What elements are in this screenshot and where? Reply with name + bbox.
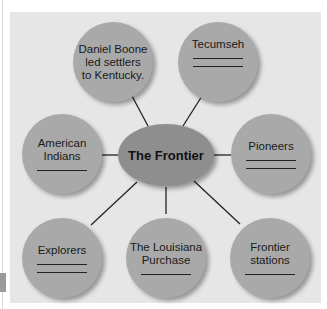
node-text: Tecumseh (192, 38, 244, 51)
answer-blank[interactable] (37, 264, 87, 265)
center-label: The Frontier (128, 148, 204, 163)
node-text: to Kentucky. (82, 69, 144, 82)
node-text: Daniel Boone (78, 43, 147, 56)
node-text: stations (250, 254, 290, 267)
node-text: Pioneers (248, 140, 293, 153)
answer-blank[interactable] (37, 272, 87, 273)
node-american-indians: American Indians (22, 114, 102, 194)
node-text: The Louisiana (130, 241, 202, 254)
answer-blank[interactable] (37, 170, 87, 171)
node-text: Purchase (142, 254, 191, 267)
answer-blank[interactable] (193, 58, 243, 59)
node-text: Explorers (38, 244, 87, 257)
node-text: American (38, 137, 87, 150)
node-frontier-stations: Frontier stations (230, 218, 310, 298)
answer-blank[interactable] (246, 160, 296, 161)
node-tecumseh: Tecumseh (178, 22, 258, 102)
node-text: Indians (43, 150, 80, 163)
answer-blank[interactable] (141, 274, 191, 275)
node-text: Frontier (250, 241, 290, 254)
answer-blank[interactable] (193, 66, 243, 67)
answer-blank[interactable] (245, 274, 295, 275)
center-topic: The Frontier (118, 124, 214, 186)
node-daniel-boone: Daniel Boone led settlers to Kentucky. (73, 22, 153, 102)
answer-blank[interactable] (246, 168, 296, 169)
node-pioneers: Pioneers (231, 114, 311, 194)
node-text: led settlers (85, 56, 141, 69)
node-louisiana-purchase: The Louisiana Purchase (126, 218, 206, 298)
node-explorers: Explorers (22, 218, 102, 298)
